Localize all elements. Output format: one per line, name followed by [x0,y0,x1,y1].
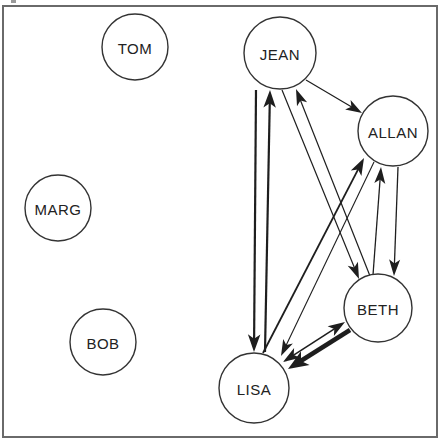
node-label: JEAN [260,46,300,63]
arrowhead-icon [351,158,364,176]
edge-jean-to-allan [306,80,362,113]
edge-line [373,175,380,275]
node-label: MARG [35,201,82,218]
node-allan: ALLAN [358,96,428,166]
corner-mark [11,0,16,3]
node-label: BETH [357,301,399,318]
arrowhead-icon [345,100,362,113]
nodes-layer: JEANTOMALLANMARGBETHBOBLISA [25,14,428,423]
sociogram-diagram: JEANTOMALLANMARGBETHBOBLISA [0,0,444,443]
node-beth: BETH [344,274,412,342]
edge-line [295,330,350,365]
node-lisa: LISA [219,353,289,423]
edge-line [265,98,270,352]
node-marg: MARG [25,175,91,241]
edge-lisa-to-jean [263,90,276,352]
node-label: TOM [118,40,153,57]
edge-lisa-to-beth [283,322,345,362]
node-label: ALLAN [368,124,418,141]
node-label: BOB [86,335,119,352]
edge-jean-to-beth [282,90,359,279]
edge-allan-to-beth [389,167,400,276]
node-label: LISA [237,381,272,398]
edge-beth-to-lisa [288,330,350,369]
node-bob: BOB [70,309,136,375]
edge-beth-to-allan [373,167,385,275]
edge-line [306,80,355,109]
node-jean: JEAN [244,17,316,89]
edge-line [254,90,256,344]
edge-line [394,167,398,268]
edge-jean-to-lisa [248,90,261,352]
node-tom: TOM [102,14,168,80]
edge-line [263,165,360,353]
